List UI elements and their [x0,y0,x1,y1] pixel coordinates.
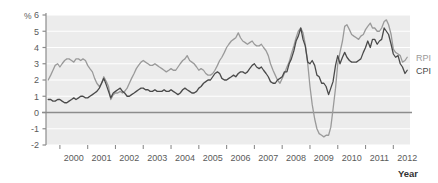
y-axis-tick-label: 1 [34,92,39,102]
series-label-rpi: RPI [416,53,431,63]
x-axis-tick-label: 2001 [92,153,112,163]
x-axis-tick-label: 2004 [175,153,195,163]
chart-canvas: 6543210-1-2%2000200120022003200420052006… [0,0,438,183]
y-axis-tick-label: -2 [31,140,39,150]
y-axis-title: % [24,11,32,21]
x-axis-tick-label: 2010 [342,153,362,163]
y-axis-tick-label: 6 [34,10,39,20]
x-axis-tick-label: 2002 [119,153,139,163]
y-axis-tick-label: 4 [34,43,39,53]
x-axis-tick-label: 2005 [203,153,223,163]
y-axis-tick-label: 2 [34,75,39,85]
inflation-line-chart: 6543210-1-2%2000200120022003200420052006… [0,0,438,183]
y-axis-tick-label: 3 [34,59,39,69]
x-axis-tick-label: 2007 [258,153,278,163]
x-axis-title: Year [398,168,418,179]
x-axis-tick-label: 2009 [314,153,334,163]
y-axis-tick-label: 5 [34,27,39,37]
x-axis-tick-label: 2008 [286,153,306,163]
x-axis-tick-label: 2003 [147,153,167,163]
x-axis-tick-label: 2011 [370,153,389,163]
x-axis-tick-label: 2012 [397,153,417,163]
y-axis-tick-label: 0 [34,108,39,118]
x-axis-tick-label: 2006 [230,153,250,163]
x-axis-tick-label: 2000 [64,153,84,163]
y-axis-tick-label: -1 [31,124,39,134]
series-label-cpi: CPI [416,66,431,76]
